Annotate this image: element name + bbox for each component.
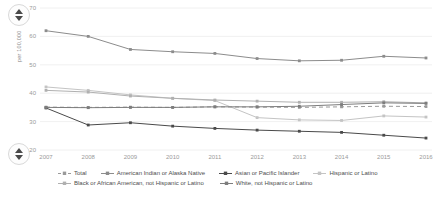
x-tick-label: 2013 [293, 154, 306, 160]
legend-label: Asian or Pacific Islander [235, 168, 299, 178]
x-tick-label: 2007 [39, 154, 52, 160]
legend-label: Black or African American, not Hispanic … [74, 178, 204, 188]
scroll-up-icon[interactable] [15, 9, 23, 14]
y-tick-label: 30 [29, 119, 36, 125]
data-point [171, 125, 174, 128]
data-point [45, 106, 48, 109]
data-point [256, 129, 259, 132]
data-point [298, 130, 301, 133]
data-point [87, 106, 90, 109]
data-point [340, 59, 343, 62]
legend-marker-icon [101, 170, 114, 177]
data-point [171, 97, 174, 100]
data-point [45, 86, 48, 89]
legend-item[interactable]: Total [58, 168, 87, 178]
y-axis-label: per 100,000 [16, 30, 22, 62]
data-point [171, 106, 174, 109]
y-tick-label: 70 [29, 5, 36, 11]
scroll-down-icon[interactable] [15, 16, 23, 21]
x-tick-label: 2016 [419, 154, 432, 160]
legend-item[interactable]: American Indian or Alaska Native [101, 168, 205, 178]
x-tick-label: 2015 [377, 154, 390, 160]
legend-item[interactable]: Asian or Pacific Islander [219, 168, 299, 178]
x-tick-label: 2012 [250, 154, 263, 160]
data-point [45, 29, 48, 32]
legend-marker-icon [58, 170, 71, 177]
legend-marker-icon [58, 180, 71, 187]
y-tick-label: 50 [29, 62, 36, 68]
data-point [213, 52, 216, 55]
chart-canvas [40, 8, 432, 150]
data-point [298, 59, 301, 62]
data-point [298, 105, 301, 108]
series-asian-or-pacific-islander [45, 107, 428, 140]
legend-label: Total [74, 168, 87, 178]
data-point [129, 106, 132, 109]
data-point [298, 101, 301, 104]
data-point [256, 105, 259, 108]
scroll-spinner-top[interactable] [8, 4, 30, 26]
data-point [340, 119, 343, 122]
series-american-indian-or-alaska-native [45, 29, 428, 62]
data-point [425, 116, 428, 119]
legend-label: White, not Hispanic or Latino [236, 178, 313, 188]
scroll-spinner-bottom[interactable] [8, 143, 30, 165]
y-tick-label: 60 [29, 33, 36, 39]
legend-marker-icon [219, 170, 232, 177]
data-point [425, 137, 428, 140]
data-point [298, 119, 301, 122]
data-point [87, 91, 90, 94]
x-tick-label: 2009 [124, 154, 137, 160]
data-point [87, 35, 90, 38]
scroll-up-icon[interactable] [15, 148, 23, 153]
data-point [340, 131, 343, 134]
data-point [129, 48, 132, 51]
data-point [340, 103, 343, 106]
data-point [382, 55, 385, 58]
data-point [256, 57, 259, 60]
data-point [425, 105, 428, 108]
data-point [45, 89, 48, 92]
chart-legend: TotalAmerican Indian or Alaska NativeAsi… [58, 168, 430, 188]
legend-marker-icon [220, 180, 233, 187]
legend-label: Hispanic or Latino [329, 168, 377, 178]
legend-marker-icon [313, 170, 326, 177]
data-point [382, 134, 385, 137]
legend-row: Black or African American, not Hispanic … [58, 178, 430, 188]
legend-item[interactable]: Black or African American, not Hispanic … [58, 178, 204, 188]
y-tick-label: 20 [29, 147, 36, 153]
data-point [129, 95, 132, 98]
data-point [256, 116, 259, 119]
plot-area: 203040506070 200720082009201020112012201… [40, 8, 432, 150]
legend-label: American Indian or Alaska Native [117, 168, 205, 178]
data-point [171, 50, 174, 53]
x-tick-label: 2010 [166, 154, 179, 160]
legend-row: TotalAmerican Indian or Alaska NativeAsi… [58, 168, 430, 178]
series-line [46, 108, 426, 138]
data-point [256, 100, 259, 103]
x-tick-label: 2011 [208, 154, 221, 160]
data-point [382, 105, 385, 108]
series-black-or-african-american-not-hispanic-or-latino [45, 89, 428, 104]
data-point [213, 99, 216, 102]
data-point [129, 121, 132, 124]
x-tick-label: 2008 [82, 154, 95, 160]
data-point [425, 57, 428, 60]
x-tick-label: 2014 [335, 154, 348, 160]
data-point [213, 105, 216, 108]
data-point [213, 127, 216, 130]
data-point [382, 101, 385, 104]
data-point [87, 124, 90, 127]
scroll-down-icon[interactable] [15, 155, 23, 160]
legend-item[interactable]: White, not Hispanic or Latino [220, 178, 313, 188]
y-tick-label: 40 [29, 90, 36, 96]
series-line [46, 31, 426, 61]
data-point [425, 102, 428, 105]
chart-screenshot: per 100,000 203040506070 200720082009201… [0, 0, 441, 198]
series-white-not-hispanic-or-latino [45, 101, 428, 109]
data-point [382, 115, 385, 118]
legend-item[interactable]: Hispanic or Latino [313, 168, 377, 178]
